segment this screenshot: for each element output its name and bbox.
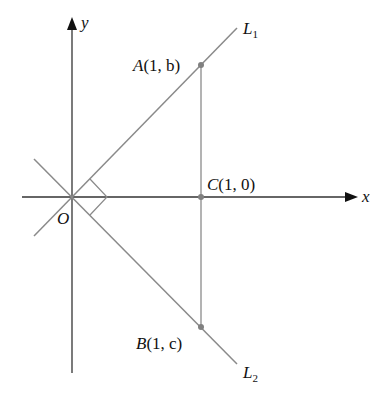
line-l1-label: L1: [243, 20, 258, 40]
line-l1-subscript: 1: [252, 28, 258, 40]
x-axis-arrow-icon: [345, 192, 358, 202]
x-axis-label: x: [362, 188, 370, 205]
point-a: [198, 62, 204, 68]
point-c: [198, 194, 204, 200]
point-c-coords: (1, 0): [218, 175, 255, 194]
point-c-name: C: [207, 175, 218, 194]
point-a-name: A: [133, 56, 143, 75]
line-l2-label: L2: [243, 364, 258, 384]
point-a-coords: (1, b): [143, 56, 180, 75]
point-b-coords: (1, c): [146, 334, 182, 353]
point-b-name: B: [136, 334, 146, 353]
point-c-label: C(1, 0): [207, 176, 255, 193]
line-l2-subscript: 2: [252, 372, 258, 384]
diagram-canvas: y x O A(1, b) C(1, 0) B(1, c) L1 L2: [0, 0, 380, 396]
point-a-label: A(1, b): [133, 57, 180, 74]
y-axis-arrow-icon: [67, 17, 77, 30]
y-axis-label: y: [81, 14, 89, 31]
diagram-svg: [0, 0, 380, 396]
point-b: [198, 324, 204, 330]
origin-label: O: [57, 210, 69, 227]
point-b-label: B(1, c): [136, 335, 182, 352]
